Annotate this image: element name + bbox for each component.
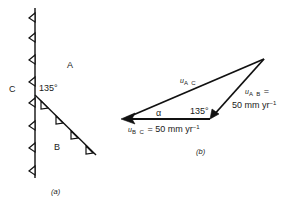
angle-135-label-b: 135° (190, 107, 209, 116)
vector-ab-subscript: A B (249, 91, 261, 97)
vector-bc-value-text: = 50 mm yr (147, 124, 192, 134)
vector-bc-label: uB C = 50 mm yr−1 (128, 124, 200, 135)
vertical-boundary-teeth (29, 13, 35, 175)
vector-ab-value-text: 50 mm yr (232, 100, 270, 110)
vector-ac-subscript: A C (184, 80, 197, 86)
vector-bc-subscript: B C (132, 129, 145, 135)
vector-ab-exponent: −1 (270, 100, 277, 106)
vector-ac-label: uA C (180, 76, 197, 86)
vector-bc-exponent: −1 (193, 124, 200, 130)
plate-label-c: C (9, 85, 16, 94)
vector-ab-label: uA B = (245, 87, 269, 97)
vector-ab-value: 50 mm yr−1 (232, 100, 276, 110)
angle-135-label-a: 135° (39, 84, 58, 93)
angle-alpha-label: α (156, 109, 161, 118)
vector-ab-equals: = (264, 86, 269, 96)
plate-label-b: B (54, 143, 60, 152)
caption-a: (a) (51, 188, 60, 196)
plate-label-a: A (67, 61, 73, 70)
caption-b: (b) (196, 148, 205, 156)
figure-a-boundaries (29, 8, 96, 178)
